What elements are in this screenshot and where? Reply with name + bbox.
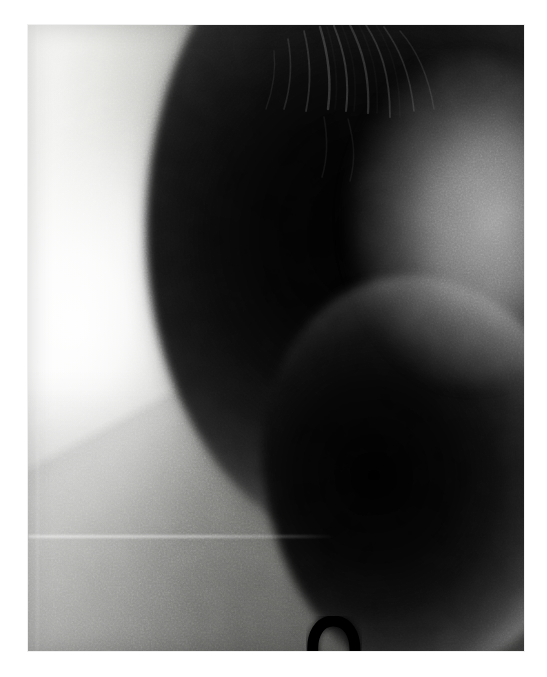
- radiograph-viewer: [0, 0, 547, 677]
- image-caption: [0, 0, 1, 1]
- barium-filled-stomach: [28, 25, 524, 651]
- radiograph-plate: [28, 25, 524, 651]
- scan-seam-vertical: [36, 25, 39, 651]
- scan-seam-line: [28, 535, 336, 538]
- radiopaque-hook-device: [306, 616, 362, 651]
